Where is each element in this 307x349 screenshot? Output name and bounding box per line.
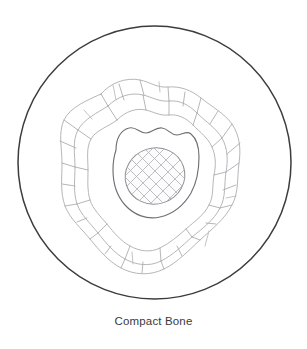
figure-caption: Compact Bone	[0, 313, 307, 329]
compact-bone-figure: Compact Bone	[0, 0, 307, 349]
haversian-canal-outline	[118, 140, 192, 212]
compact-bone-diagram	[0, 0, 307, 349]
